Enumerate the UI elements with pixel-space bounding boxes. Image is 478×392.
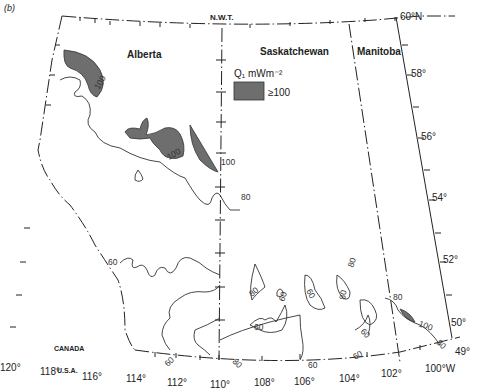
contour-60-se-alberta (194, 318, 220, 355)
contour-80-small-loop (135, 170, 143, 181)
lat-label-56: 56° (421, 131, 436, 142)
lon-label-120: 120° (0, 362, 21, 373)
lon-label-110: 110° (210, 379, 230, 390)
contour-label: 80 (435, 337, 449, 351)
lat-label-49: 49° (455, 346, 470, 357)
lat-label-50: 50° (451, 317, 466, 328)
region-label-usa: U.S.A. (57, 367, 78, 374)
contour-label: 60 (108, 257, 118, 267)
heat-flow-map: (b) N.W.T. Alberta Saskatchewan Manitoba… (0, 0, 478, 392)
lon-label-112: 112° (167, 377, 187, 388)
north-ticks (80, 17, 395, 28)
saskatchewan-manitoba-boundary (349, 24, 400, 362)
lat-label-52: 52° (443, 254, 458, 265)
lat-label-60: 60°N (400, 11, 422, 22)
lon-label-100w: 100°W (425, 363, 456, 374)
contour-label: 100 (221, 157, 235, 167)
legend-title: Q₁ mWm⁻² (234, 68, 283, 79)
contour-label: 80 (231, 356, 245, 370)
lon-label-108: 108° (254, 377, 275, 388)
contour-label: 80 (241, 192, 251, 202)
contour-60-sask-e (360, 300, 377, 325)
lon-label-104: 104° (339, 373, 360, 384)
contour-label: 100 (417, 318, 434, 332)
high-heatflow-area-border (190, 125, 218, 172)
south-ticks (155, 345, 420, 361)
contour-label: 80 (345, 256, 358, 269)
legend-swatch (234, 82, 264, 100)
contour-60-alberta (120, 257, 220, 276)
contour-label: 60 (351, 348, 364, 362)
lon-label-102: 102° (381, 368, 402, 379)
southern-boundary-49n (135, 337, 460, 361)
outside-ticks (10, 228, 30, 327)
contour-label: 60 (254, 322, 264, 332)
contour-label: 80 (393, 292, 403, 302)
contour-60-south-alberta (162, 285, 220, 350)
lat-label-54: 54° (432, 192, 447, 203)
legend-swatch-label: ≥100 (268, 87, 291, 98)
contour-80-north (60, 77, 240, 210)
figure-corner-label: (b) (4, 3, 15, 13)
contour-label: 60 (162, 354, 176, 368)
contour-label: 60 (359, 326, 373, 340)
eastern-frame (396, 17, 452, 338)
lon-label-106: 106° (294, 376, 315, 387)
region-label-saskatchewan: Saskatchewan (260, 46, 329, 57)
contour-label: 80 (247, 285, 261, 299)
region-label-alberta: Alberta (127, 49, 162, 60)
contour-label: 80 (337, 289, 349, 300)
lon-label-114: 114° (126, 373, 146, 384)
lat-label-58: 58° (411, 68, 426, 79)
contour-label: 60 (276, 290, 289, 303)
region-label-manitoba: Manitoba (357, 46, 401, 57)
region-label-canada: CANADA (54, 345, 84, 352)
lon-label-118: 118° (40, 366, 60, 377)
region-label-nwt: N.W.T. (210, 13, 234, 22)
lon-label-116: 116° (82, 371, 102, 382)
contour-label: 60 (308, 360, 318, 370)
